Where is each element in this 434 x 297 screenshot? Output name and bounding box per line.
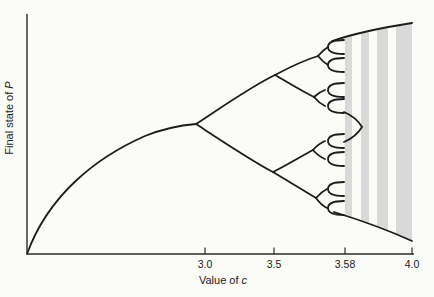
y-axis-title-text: Final state of [3,89,15,155]
period8-connector [313,141,325,150]
period8-connector [316,189,327,198]
period16-beak [328,40,344,54]
x-tick-label: 3.0 [198,258,213,270]
period2-upper-branch [196,75,275,124]
period4-branch-upper-down [275,75,314,97]
x-axis-title-variable: c [242,274,248,286]
x-axis-title: Value of c [199,274,248,286]
x-tick-label: 3.5 [267,258,282,270]
period4-branch-lower-down [273,172,316,198]
x-tick-label: 3.58 [335,258,356,270]
y-axis-title: Final state of P [3,81,15,155]
period2-lower-branch [196,124,273,172]
period8-connector [318,47,328,56]
periodic-window-stripe [369,18,377,248]
period8-connector [318,56,328,65]
x-tick-label: 4.0 [405,258,420,270]
period8-connector [313,150,325,159]
period8-connector [314,90,325,97]
period16-beak [328,182,344,196]
period16-beak [328,58,344,72]
equilibrium-curve [27,124,196,254]
period16-beak [328,99,344,113]
bifurcation-figure: 3.0 3.5 3.58 4.0 Value of c Final state … [0,0,434,297]
y-axis-title-variable: P [3,81,15,89]
period4-branch-lower-up [273,150,313,172]
period16-beak [328,134,344,148]
periodic-window-stripe [388,18,396,248]
bifurcation-plot: 3.0 3.5 3.58 4.0 Value of c Final state … [0,0,434,297]
period16-beak [328,152,344,166]
period4-branch-upper-up [275,56,318,75]
x-axis-title-text: Value of [199,274,242,286]
period16-beak [328,83,344,97]
period8-connector [316,198,327,208]
period8-connector [314,97,325,106]
